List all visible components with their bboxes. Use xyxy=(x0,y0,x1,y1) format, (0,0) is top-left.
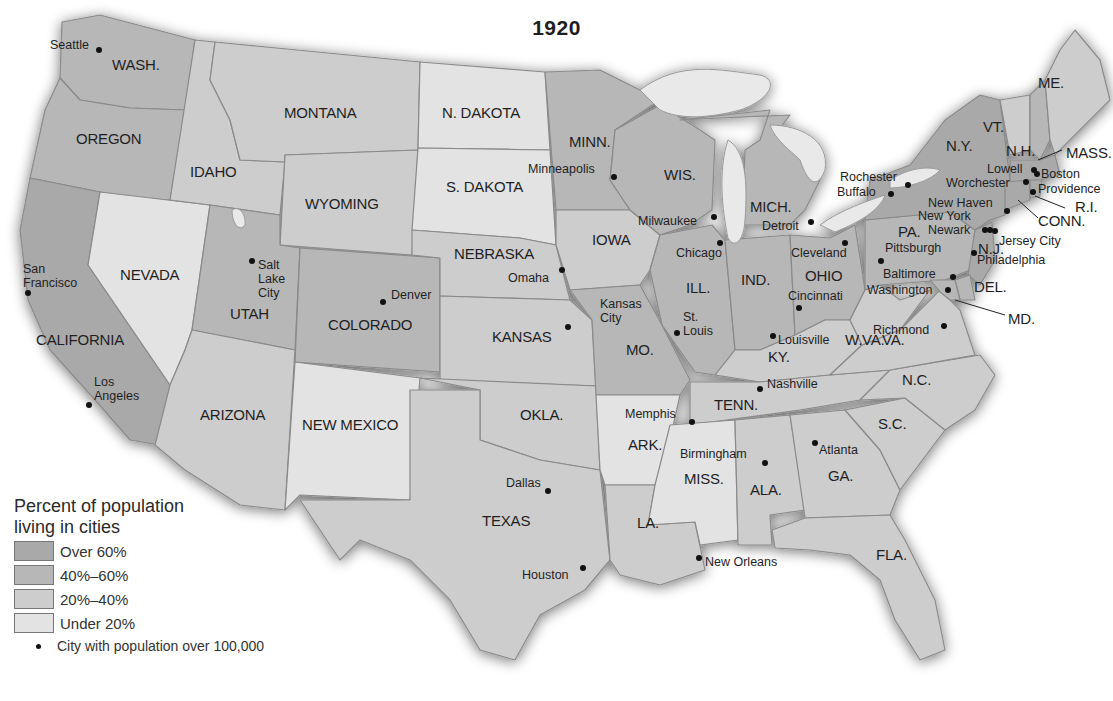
city-label-new-orleans: New Orleans xyxy=(705,555,777,569)
state-label-wash: WASH. xyxy=(112,56,160,73)
city-dot-denver xyxy=(380,299,386,305)
city-dot-milwaukee xyxy=(711,214,717,220)
state-label-ark: ARK. xyxy=(628,436,662,453)
city-dot-seattle xyxy=(96,47,102,53)
state-label-mich: MICH. xyxy=(750,198,792,215)
state-label-sc: S.C. xyxy=(878,415,906,432)
city-dot-providence xyxy=(1030,189,1036,195)
state-maine xyxy=(1045,30,1110,155)
state-label-la: LA. xyxy=(637,514,659,531)
city-dot-new-orleans xyxy=(696,555,702,561)
city-dot-jersey-city xyxy=(992,228,998,234)
state-montana xyxy=(210,42,420,162)
city-label-cleveland: Cleveland xyxy=(791,246,847,260)
state-label-fla: FLA. xyxy=(876,546,907,563)
city-dot-salt-lake-city xyxy=(249,258,255,264)
state-label-s-dakota: S. DAKOTA xyxy=(446,178,523,195)
state-label-ga: GA. xyxy=(828,467,853,484)
city-label-birmingham: Birmingham xyxy=(680,447,747,461)
state-label-wyoming: WYOMING xyxy=(305,195,379,212)
city-dot-dallas xyxy=(545,488,551,494)
state-label-oregon: OREGON xyxy=(76,130,141,147)
city-dot-pittsburgh xyxy=(878,258,884,264)
city-dot-rochester xyxy=(905,182,911,188)
city-label-kansas-city-2: City xyxy=(600,311,622,325)
city-dot-lowell xyxy=(1031,167,1037,173)
legend-city-label: City with population over 100,000 xyxy=(57,638,264,654)
city-label-houston: Houston xyxy=(522,568,569,582)
state-label-mo: MO. xyxy=(626,341,654,358)
city-label-los-angeles-2: Angeles xyxy=(94,389,139,403)
city-dot-cincinnati xyxy=(796,305,802,311)
state-label-pa: PA. xyxy=(898,223,920,240)
city-label-boston: Boston xyxy=(1041,167,1080,181)
legend-item-under-20: Under 20% xyxy=(14,612,264,634)
legend-swatch-40-60 xyxy=(14,565,54,585)
city-label-chicago: Chicago xyxy=(676,246,722,260)
legend-swatch-20-40 xyxy=(14,589,54,609)
city-dot-nashville xyxy=(757,386,763,392)
state-label-ky: KY. xyxy=(768,348,790,365)
legend-swatch-over-60 xyxy=(14,541,54,561)
city-label-rochester: Rochester xyxy=(840,170,897,184)
legend-item-20-40: 20%–40% xyxy=(14,588,264,610)
city-label-dallas: Dallas xyxy=(506,476,541,490)
city-label-omaha: Omaha xyxy=(508,271,549,285)
state-label-texas: TEXAS xyxy=(482,512,530,529)
state-label-ohio: OHIO xyxy=(805,267,843,284)
city-dot-louisville xyxy=(770,333,776,339)
city-label-los-angeles-1: Los xyxy=(94,375,114,389)
city-label-philadelphia: Philadelphia xyxy=(977,253,1045,267)
city-label-lowell: Lowell xyxy=(987,162,1022,176)
map-title: 1920 xyxy=(0,16,1113,40)
city-dot-kansas-city xyxy=(565,324,571,330)
legend-label-20-40: 20%–40% xyxy=(60,591,128,608)
state-label-conn: CONN. xyxy=(1038,212,1085,229)
city-dot-atlanta xyxy=(812,440,818,446)
city-label-seattle: Seattle xyxy=(50,38,89,52)
state-label-arizona: ARIZONA xyxy=(200,406,265,423)
state-label-idaho: IDAHO xyxy=(190,163,237,180)
city-dot-omaha xyxy=(559,267,565,273)
state-label-colorado: COLORADO xyxy=(328,316,412,333)
state-label-nevada: NEVADA xyxy=(120,266,179,283)
city-label-new-york: New York xyxy=(918,209,971,223)
city-label-denver: Denver xyxy=(391,288,431,302)
city-dot-washington xyxy=(945,287,951,293)
city-label-milwaukee: Milwaukee xyxy=(638,214,697,228)
city-label-pittsburgh: Pittsburgh xyxy=(885,241,941,255)
city-label-richmond: Richmond xyxy=(873,323,929,337)
state-label-tenn: TENN. xyxy=(714,396,758,413)
state-label-okla: OKLA. xyxy=(520,406,563,423)
city-dot-los-angeles xyxy=(86,402,92,408)
legend-swatch-under-20 xyxy=(14,613,54,633)
state-label-vt: VT. xyxy=(983,118,1004,135)
city-label-baltimore: Baltimore xyxy=(883,267,936,281)
city-label-salt-lake-2: Lake xyxy=(258,272,285,286)
state-new-mexico xyxy=(285,362,420,510)
city-label-louisville: Louisville xyxy=(778,333,829,347)
city-label-st-louis-2: Louis xyxy=(683,324,713,338)
city-dot-buffalo xyxy=(888,191,894,197)
state-label-miss: MISS. xyxy=(684,470,724,487)
city-label-buffalo: Buffalo xyxy=(837,185,876,199)
city-label-salt-lake-1: Salt xyxy=(258,258,280,272)
state-label-nc: N.C. xyxy=(902,371,931,388)
city-dot-detroit xyxy=(808,219,814,225)
state-label-md: MD. xyxy=(1008,310,1035,327)
city-dot-icon xyxy=(36,644,41,649)
state-label-california: CALIFORNIA xyxy=(36,331,124,348)
city-dot-memphis xyxy=(689,419,695,425)
state-label-kansas: KANSAS xyxy=(492,328,552,345)
city-dot-birmingham xyxy=(762,460,768,466)
lake-michigan xyxy=(722,140,746,243)
city-label-worchester: Worchester xyxy=(946,176,1010,190)
city-dot-richmond xyxy=(941,323,947,329)
city-label-cincinnati: Cincinnati xyxy=(788,289,843,303)
state-label-ny: N.Y. xyxy=(946,137,972,154)
city-label-st-louis-1: St. xyxy=(683,310,698,324)
state-label-ala: ALA. xyxy=(750,481,782,498)
state-label-mass: MASS. xyxy=(1066,144,1112,161)
city-label-memphis: Memphis xyxy=(625,407,676,421)
state-label-n-dakota: N. DAKOTA xyxy=(442,104,520,121)
